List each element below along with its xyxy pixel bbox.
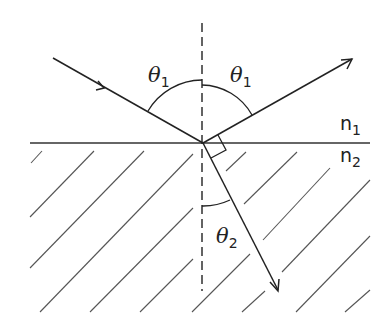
optics-diagram: θ1 θ1 θ2 n1 n2 [0, 0, 390, 326]
incident-ray [53, 58, 203, 143]
refracted-arrowhead-icon [270, 279, 279, 291]
medium-n2-label: n2 [340, 144, 361, 170]
refracted-angle-label: θ2 [216, 224, 238, 251]
refracted-ray [203, 143, 278, 290]
hatch-pattern [30, 151, 370, 312]
medium-n1-label: n1 [340, 112, 361, 138]
reflected-angle-label: θ1 [230, 63, 252, 90]
refracted-angle-arc [202, 200, 230, 206]
reflected-ray [203, 59, 352, 143]
incident-angle-label: θ1 [148, 63, 170, 90]
right-angle-marker [211, 135, 226, 158]
